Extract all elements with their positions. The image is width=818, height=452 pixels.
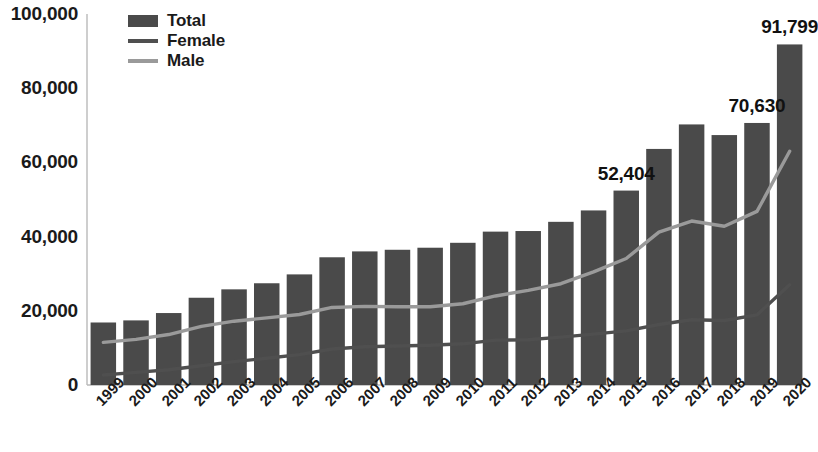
legend-label-female: Female (167, 32, 225, 49)
data-label-2019: 70,630 (729, 95, 786, 117)
data-label-2020: 91,799 (761, 16, 818, 38)
legend-line-swatch-icon (128, 59, 158, 63)
legend-item-female[interactable]: Female (128, 32, 225, 49)
chart-legend: TotalFemaleMale (128, 12, 225, 69)
data-label-2015: 52,404 (598, 163, 655, 185)
legend-bar-swatch-icon (128, 15, 158, 27)
legend-label-male: Male (167, 52, 204, 69)
legend-label-total: Total (167, 12, 206, 29)
legend-item-male[interactable]: Male (128, 52, 225, 69)
legend-item-total[interactable]: Total (128, 12, 225, 29)
legend-line-swatch-icon (128, 39, 158, 43)
